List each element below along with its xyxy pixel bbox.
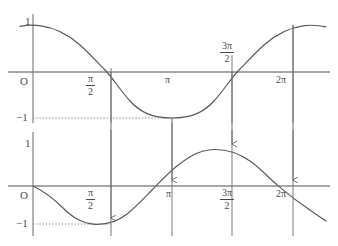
bottom-xtick-3pi-over-2-numerator: 3π — [220, 188, 234, 200]
bottom-xtick-pi-over-2: π 2 — [86, 188, 95, 211]
top-y-label-minus-one: −1 — [16, 112, 28, 123]
bottom-xtick-pi-over-2-denominator: 2 — [86, 200, 95, 211]
bottom-xtick-3pi-over-2: 3π 2 — [220, 188, 234, 211]
top-xtick-pi-over-2: π 2 — [86, 74, 95, 97]
bottom-xtick-pi: π — [166, 189, 171, 199]
top-origin-label: O — [20, 76, 28, 87]
top-xtick-2pi: 2π — [276, 75, 286, 85]
bottom-xtick-3pi-over-2-denominator: 2 — [220, 200, 234, 211]
bottom-xtick-2pi: 2π — [276, 189, 286, 199]
top-xtick-pi: π — [165, 75, 170, 85]
top-xtick-3pi-over-2-numerator: 3π — [220, 41, 234, 53]
top-xtick-3pi-over-2: 3π 2 — [220, 41, 234, 64]
bottom-y-label-minus-one: −1 — [16, 218, 28, 229]
top-xtick-pi-over-2-numerator: π — [86, 74, 95, 86]
top-xtick-pi-over-2-denominator: 2 — [86, 86, 95, 97]
top-xtick-3pi-over-2-denominator: 2 — [220, 53, 234, 64]
negative-sine-curve — [33, 149, 326, 224]
graph-canvas — [0, 0, 338, 246]
trig-graph-figure: 1 −1 O π 2 π 3π 2 2π 1 −1 O π 2 π 3π 2 2… — [0, 0, 338, 246]
bottom-y-label-one: 1 — [25, 138, 31, 149]
bottom-origin-label: O — [20, 190, 28, 201]
bottom-xtick-pi-over-2-numerator: π — [86, 188, 95, 200]
top-y-label-one: 1 — [25, 16, 31, 27]
